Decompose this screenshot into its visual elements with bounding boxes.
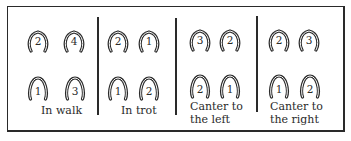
horseshoe-hind-left-icon: 1 — [268, 73, 290, 99]
step-number: 2 — [27, 35, 49, 47]
horseshoe-front-left-icon: 2 — [27, 28, 49, 54]
horseshoe-front-right-icon: 4 — [63, 28, 85, 54]
step-number: 1 — [107, 85, 129, 97]
step-number: 1 — [219, 83, 241, 95]
label-line: the right — [270, 113, 323, 126]
gait-label-canter-left: Canter tothe left — [190, 100, 243, 126]
step-number: 3 — [189, 34, 211, 46]
horseshoe-front-left-icon: 3 — [189, 27, 211, 53]
label-line: Canter to — [270, 100, 323, 113]
step-number: 2 — [138, 85, 160, 97]
horseshoe-hind-right-icon: 2 — [138, 75, 160, 101]
divider-2 — [175, 18, 177, 115]
gait-label-trot: In trot — [121, 104, 157, 117]
horseshoe-hind-left-icon: 1 — [27, 75, 49, 101]
gait-label-walk: In walk — [41, 104, 82, 117]
horseshoe-hind-left-icon: 1 — [107, 75, 129, 101]
horseshoe-front-left-icon: 2 — [107, 28, 129, 54]
step-number: 3 — [64, 85, 86, 97]
label-line: the left — [190, 113, 243, 126]
step-number: 1 — [138, 35, 160, 47]
step-number: 4 — [63, 35, 85, 47]
divider-3 — [256, 16, 258, 112]
horseshoe-front-right-icon: 1 — [138, 28, 160, 54]
horseshoe-hind-right-icon: 3 — [64, 75, 86, 101]
step-number: 2 — [219, 34, 241, 46]
label-line: Canter to — [190, 100, 243, 113]
horseshoe-hind-right-icon: 1 — [219, 73, 241, 99]
horseshoe-hind-left-icon: 2 — [189, 73, 211, 99]
horseshoe-front-left-icon: 2 — [268, 27, 290, 53]
horseshoe-front-right-icon: 3 — [298, 27, 320, 53]
divider-1 — [97, 17, 99, 115]
step-number: 1 — [268, 83, 290, 95]
step-number: 2 — [268, 34, 290, 46]
label-line: In trot — [121, 104, 157, 117]
label-line: In walk — [41, 104, 82, 117]
step-number: 3 — [298, 34, 320, 46]
step-number: 2 — [189, 83, 211, 95]
horseshoe-front-right-icon: 2 — [219, 27, 241, 53]
step-number: 2 — [299, 83, 321, 95]
step-number: 1 — [27, 85, 49, 97]
step-number: 2 — [107, 35, 129, 47]
horseshoe-hind-right-icon: 2 — [299, 73, 321, 99]
gait-label-canter-right: Canter tothe right — [270, 100, 323, 126]
